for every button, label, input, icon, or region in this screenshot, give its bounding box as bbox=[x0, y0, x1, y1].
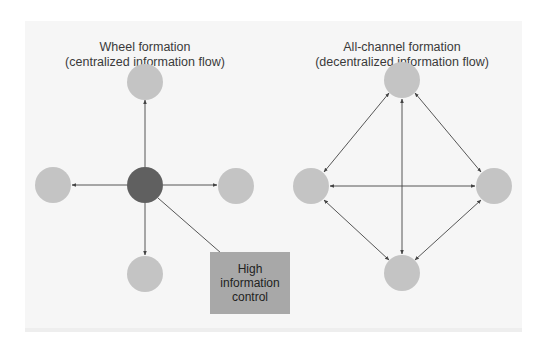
wheel-node-right bbox=[218, 168, 254, 204]
ac-edge-top-left bbox=[324, 93, 389, 172]
ac-edge-right-bottom bbox=[415, 200, 481, 260]
ac-node-left bbox=[293, 168, 329, 204]
callout-line-2: information bbox=[220, 276, 279, 290]
callout-line-1: High bbox=[220, 262, 279, 276]
wheel-node-center bbox=[127, 167, 163, 203]
ac-edge-left-bottom bbox=[324, 200, 389, 260]
ac-node-right bbox=[476, 168, 512, 204]
callout-leader-line bbox=[158, 198, 221, 253]
high-information-control-callout: High information control bbox=[210, 252, 290, 314]
ac-node-bottom bbox=[384, 255, 420, 291]
wheel-node-top bbox=[127, 64, 163, 100]
callout-line-3: control bbox=[220, 290, 279, 304]
ac-edge-top-right bbox=[415, 93, 481, 172]
all-channel-nodes bbox=[293, 62, 512, 291]
ac-node-top bbox=[384, 62, 420, 98]
wheel-node-bottom bbox=[127, 256, 163, 292]
all-channel-edges bbox=[324, 93, 481, 260]
wheel-node-left bbox=[35, 167, 71, 203]
